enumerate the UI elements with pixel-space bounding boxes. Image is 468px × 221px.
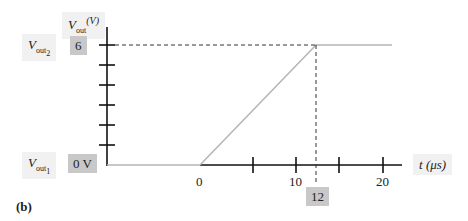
x-tick-0: 0	[196, 175, 203, 188]
y-axis-label: Vout(V)	[62, 12, 105, 39]
signal-ramp	[200, 45, 392, 165]
vout2-value: 6	[70, 36, 87, 55]
x-tick-10: 10	[289, 175, 302, 188]
vout1-label: Vout1	[22, 152, 56, 179]
vout1-value: 0 V	[68, 154, 97, 173]
vout2-label: Vout2	[22, 34, 56, 61]
x-marker-12: 12	[306, 187, 329, 206]
x-axis-label: t (μs)	[413, 154, 452, 175]
panel-label: (b)	[16, 200, 32, 213]
x-tick-20: 20	[376, 175, 389, 188]
